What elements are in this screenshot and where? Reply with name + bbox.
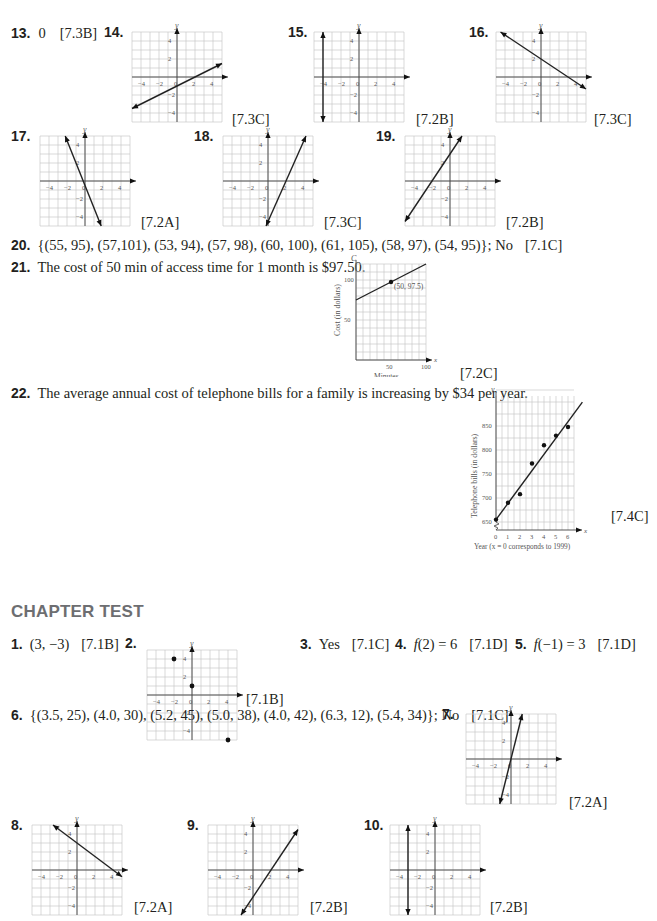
y-axis-label: y [265,126,270,134]
graph-test-2: xy−4−202442−2−4 [139,640,244,754]
y-tick-label: 100 [344,276,354,283]
x-tick-label: −4 [502,80,510,87]
x-tick-label: 0 [265,184,268,191]
x-tick-label: 2 [465,184,468,191]
x-axis-arrow-icon [576,527,582,532]
x-axis-arrow-icon [237,692,243,697]
x-tick-label: −4 [320,80,328,87]
line-arrow-icon [405,825,410,831]
graph-test-7: xy−4−202442−2−4 [458,704,563,808]
y-axis-letter: C [351,254,357,263]
section-ref: [7.3B] [60,25,97,41]
y-axis-label: y [508,704,513,712]
x-tick-label: −2 [247,184,254,191]
data-point [389,280,393,284]
y-tick-label: 4 [502,719,506,726]
y-tick-label: 4 [441,141,445,148]
answer-number: 2. [125,635,137,651]
data-point [566,425,570,429]
x-axis-letter: x [433,356,438,364]
x-axis-arrow-icon [222,74,228,79]
line-arrow-icon [293,830,298,836]
x-tick-label: 100 [421,363,431,370]
x-tick-label: 0 [494,533,497,540]
section-ref: [7.1B] [81,636,118,652]
answer-text: The average annual cost of telephone bil… [37,385,527,401]
x-axis-title: Minutes [374,372,399,377]
x-axis-arrow-icon [130,178,136,183]
y-tick-label: 650 [482,518,492,525]
cost-chart: Cx5050100100MinutesCost (in dollars)(50,… [322,252,472,377]
x-tick-label: 1 [506,533,509,540]
y-tick-label: −4 [168,109,176,116]
y-tick-label: 4 [168,37,172,44]
graph-line [501,32,586,89]
x-tick-label: 2 [100,184,103,191]
x-tick-label: 2 [192,80,195,87]
graph-test-8: xy−4−202442−2−4 [24,815,129,919]
y-tick-label: 2 [168,55,171,62]
y-tick-label: 2 [259,159,262,166]
answer-20: 20. {(55, 95), (57,101), (53, 94), (57, … [11,236,562,254]
x-axis-arrow-icon [426,357,432,362]
section-ref: [7.1C] [525,237,562,253]
x-axis-letter: x [583,527,588,535]
x-axis-arrow-icon [122,867,128,872]
x-tick-label: −4 [38,873,46,880]
x-tick-label: 0 [447,184,450,191]
y-tick-label: −2 [244,884,251,891]
telephone-chart: yx0123456650700750800850Year (x = 0 corr… [460,384,625,572]
y-tick-label: 2 [502,737,505,744]
x-axis-arrow-icon [586,74,592,79]
graph-test-9: xy−4−202442−2−4 [200,815,305,919]
answer-text: The cost of 50 min of access time for 1 … [37,259,365,275]
section-ref: [7.1D] [597,636,635,652]
x-axis-title: Year (x = 0 corresponds to 1999) [474,542,571,551]
answer-number: 19. [376,128,395,144]
x-tick-label: 2 [374,80,377,87]
x-tick-label: −4 [46,184,54,191]
graph-18: xy−4−202442−2−4 [215,126,320,230]
y-tick-label: −2 [168,91,175,98]
y-axis-title: Cost (in dollars) [333,284,342,336]
answer-13: 13. 0 [7.3B] [11,24,97,42]
x-tick-label: 2 [518,533,521,540]
y-tick-label: −4 [259,213,267,220]
y-tick-label: −4 [350,109,358,116]
answer-number: 6. [11,707,23,723]
answer-text: {(3.5, 25), (4.0, 30), (5.2, 45), (5.0, … [30,707,460,723]
graph-line [53,825,122,877]
y-axis-label: y [538,22,543,30]
y-tick-label: 4 [76,141,80,148]
axis-break-icon [494,522,499,530]
answer-number: 13. [11,25,30,41]
graph-19: xy−4−202442−2−4 [397,126,502,230]
x-tick-label: 6 [566,533,570,540]
x-tick-label: −2 [56,873,63,880]
x-tick-label: −4 [153,698,161,705]
x-tick-label: −2 [490,762,497,769]
answer-number: 14. [104,24,123,40]
section-ref: [7.2B] [490,899,527,916]
line-arrow-icon [405,909,410,915]
line-arrow-icon [320,116,325,122]
x-tick-label: −4 [229,184,237,191]
y-tick-label: 4 [426,830,430,837]
x-tick-label: 0 [356,80,359,87]
x-axis-arrow-icon [313,178,319,183]
x-tick-label: −2 [414,873,421,880]
x-tick-label: −2 [156,80,163,87]
y-axis-label: y [174,22,179,30]
y-tick-label: −4 [183,727,191,734]
answer-text: (3, −3) [30,636,70,652]
section-ref: [7.2A] [141,214,179,231]
answer-number: 5. [515,636,527,652]
section-ref: [7.2A] [569,794,607,811]
test-answer-5: 5. f(−1) = 3 [7.1D] [515,635,636,653]
x-tick-label: 2 [556,80,559,87]
x-axis-arrow-icon [556,756,562,761]
section-ref: [7.2C] [460,365,497,382]
y-axis-title: Telephone bills (in dollars) [470,433,479,518]
y-axis-label: y [250,815,255,823]
y-tick-label: −2 [532,91,539,98]
